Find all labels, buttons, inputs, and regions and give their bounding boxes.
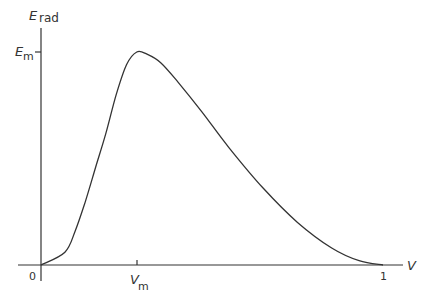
x-axis-label: V (407, 258, 417, 273)
vm-label-sub: m (138, 280, 149, 293)
em-label-sub: m (23, 50, 34, 63)
y-axis-label: E (29, 8, 38, 23)
origin-label: 0 (29, 270, 36, 283)
chart-canvas: E rad E m 0 V m 1 V (0, 0, 426, 304)
energy-distribution-curve (41, 51, 383, 265)
one-label: 1 (380, 270, 387, 283)
y-axis-label-sub: rad (39, 11, 59, 25)
